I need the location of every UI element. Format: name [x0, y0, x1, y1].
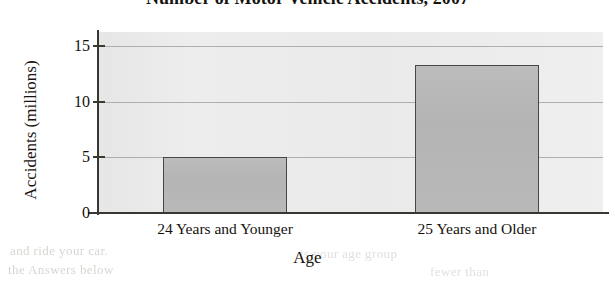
chart-title: Number of Motor Vehicle Accidents, 2007: [0, 0, 615, 9]
y-axis-title: Accidents (millions): [21, 30, 41, 230]
bar: [415, 65, 539, 213]
x-axis-title: Age: [0, 248, 615, 268]
y-tick-label: 15: [50, 37, 90, 55]
x-axis-line: [88, 212, 609, 214]
bar-chart-figure: Number of Motor Vehicle Accidents, 2007 …: [0, 0, 615, 286]
y-axis-line: [97, 30, 99, 215]
y-tick-label: 10: [50, 93, 90, 111]
y-tick-label: 0: [50, 204, 90, 222]
y-tick-mark: [93, 212, 105, 214]
y-tick-labels: 051015: [48, 0, 90, 286]
bar: [163, 157, 287, 213]
y-tick-mark: [93, 156, 105, 158]
x-tick-label: 24 Years and Younger: [157, 220, 293, 238]
y-tick-label: 5: [50, 148, 90, 166]
x-tick-label: 25 Years and Older: [418, 220, 537, 238]
y-tick-mark: [93, 101, 105, 103]
gridline: [99, 46, 603, 47]
plot-area: [99, 32, 603, 213]
y-tick-mark: [93, 45, 105, 47]
